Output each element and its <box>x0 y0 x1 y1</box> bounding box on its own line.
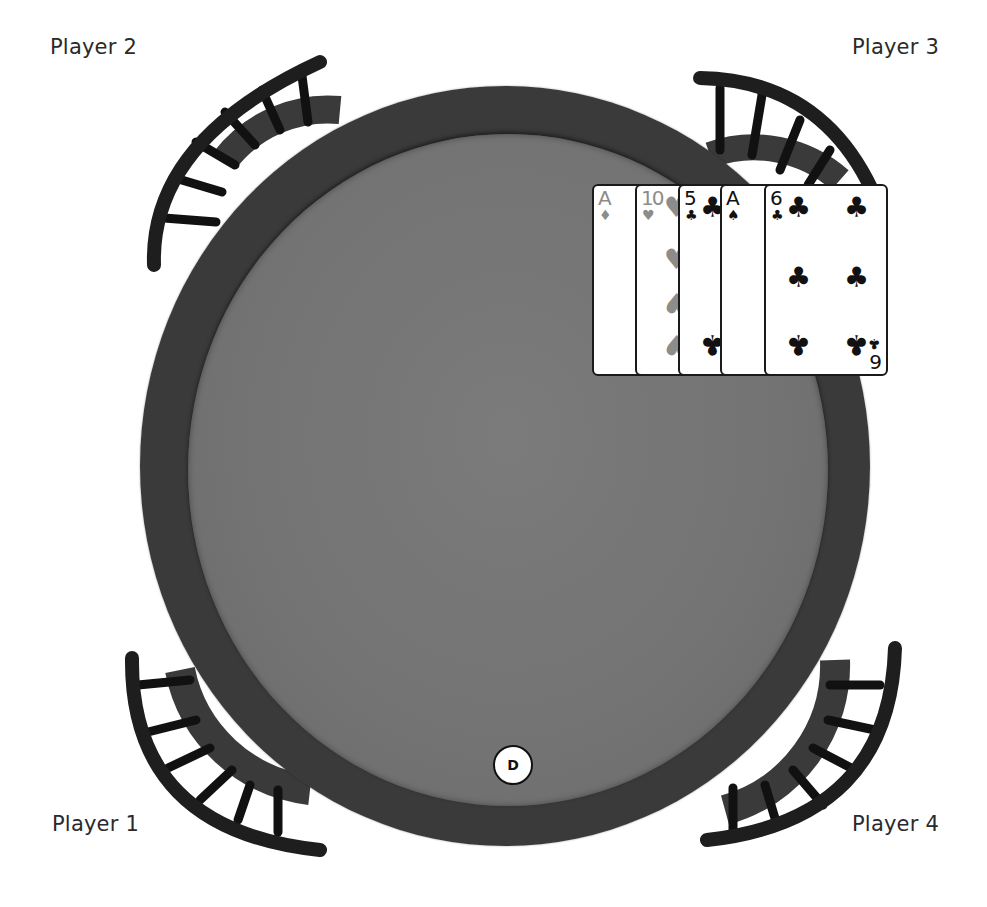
card-rank: A <box>598 187 612 209</box>
player-2-label: Player 2 <box>50 35 137 59</box>
heart-icon: ♥ <box>642 208 655 222</box>
card-rank: 6 <box>770 187 783 209</box>
club-icon: ♣ <box>786 194 811 222</box>
club-icon: ♣ <box>786 330 811 358</box>
player-3-label: Player 3 <box>852 35 939 59</box>
card-rank: 5 <box>684 187 697 209</box>
club-icon: ♣ <box>685 208 698 222</box>
club-icon: ♣ <box>844 264 869 292</box>
club-icon: ♣ <box>868 337 881 351</box>
card-six-clubs[interactable]: 6 ♣ ♣ ♣ ♣ ♣ ♣ ♣ ♣ 9 <box>764 184 888 376</box>
spade-icon: ♠ <box>727 208 740 222</box>
dealer-button: D <box>493 745 533 785</box>
club-icon: ♣ <box>786 264 811 292</box>
diamond-icon: ♦ <box>599 208 612 222</box>
card-rank: 10 <box>641 187 662 209</box>
club-icon: ♣ <box>844 330 869 358</box>
club-icon: ♣ <box>771 208 784 222</box>
club-icon: ♣ <box>844 194 869 222</box>
card-rank: A <box>726 187 740 209</box>
card-rank-inverted: 9 <box>869 351 882 373</box>
